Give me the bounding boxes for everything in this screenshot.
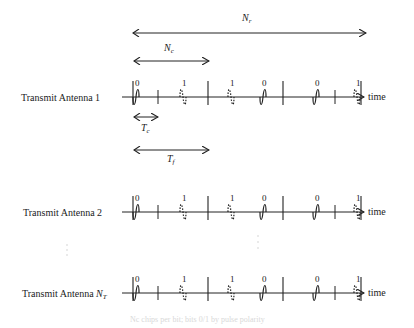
bit-label: 1 [230, 193, 235, 203]
pulse-train: 011001 [133, 78, 361, 105]
bit-label: 1 [182, 193, 187, 203]
th-ppm-diagram: Nr Nc Transmit Antenna 1 time Tc Tf Tran… [0, 0, 414, 328]
nc-label: Nc [163, 42, 175, 55]
time-axis-label: time [368, 287, 386, 298]
nc-span-arrow: Nc [134, 42, 209, 61]
bit-label: 0 [315, 78, 320, 88]
bit-label: 1 [182, 78, 187, 88]
pulse-train: 011001 [133, 193, 361, 220]
antenna-1-row: Transmit Antenna 1 time [21, 91, 386, 103]
bit-label: 0 [315, 274, 320, 284]
antenna-2-row: Transmit Antenna 2 time [23, 206, 386, 218]
tf-label: Tf [167, 153, 176, 166]
time-axis-label: time [368, 91, 386, 102]
bit-label: 0 [262, 193, 267, 203]
antenna-2-label: Transmit Antenna 2 [23, 207, 102, 218]
bit-label: 0 [315, 193, 320, 203]
bit-label: 1 [230, 78, 235, 88]
faint-footer-text: Nc chips per bit; bits 0/1 by pulse pola… [130, 315, 265, 324]
bit-label: 1 [182, 274, 187, 284]
bit-label: 0 [135, 193, 140, 203]
bit-label: 0 [135, 78, 140, 88]
bit-label: 1 [356, 193, 361, 203]
antenna-1-label: Transmit Antenna 1 [21, 92, 100, 103]
antenna-ellipsis [66, 235, 259, 256]
tc-label: Tc [141, 122, 151, 135]
time-axis: time [122, 91, 386, 102]
bit-label: 1 [230, 274, 235, 284]
tc-span-arrow: Tc [134, 117, 158, 135]
pulse-train: 011001 [133, 274, 361, 301]
bit-label: 1 [356, 78, 361, 88]
antenna-nt-row: Transmit Antenna NT time [22, 287, 386, 301]
bit-label: 0 [262, 274, 267, 284]
nr-label: Nr [241, 12, 252, 25]
time-axis: time [122, 206, 386, 217]
time-axis: time [122, 287, 386, 298]
bit-label: 0 [135, 274, 140, 284]
tf-span-arrow: Tf [134, 150, 209, 166]
bit-label: 0 [262, 78, 267, 88]
bit-label: 1 [356, 274, 361, 284]
nr-span-arrow: Nr [133, 12, 366, 33]
antenna-nt-label: Transmit Antenna NT [22, 288, 108, 301]
time-axis-label: time [368, 206, 386, 217]
